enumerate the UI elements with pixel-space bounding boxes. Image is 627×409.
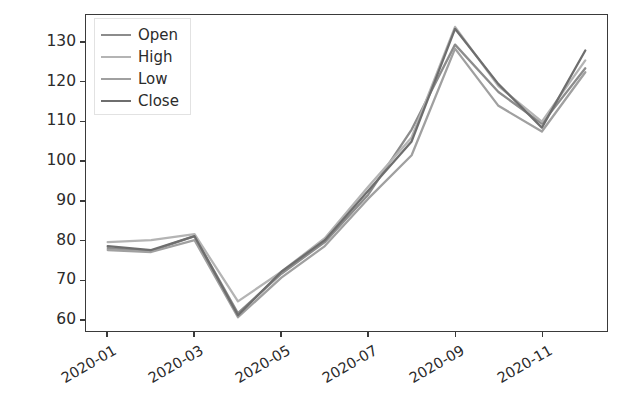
legend-swatch-high [101,56,131,58]
x-tick-mark [455,332,457,337]
legend-label: Open [138,28,178,43]
legend-item-high[interactable]: High [101,46,184,68]
x-tick-mark [106,332,108,337]
chart-figure: 60708090100110120130 2020-012020-032020-… [0,0,627,409]
x-tick-mark [193,332,195,337]
x-tick-label: 2020-09 [399,342,468,391]
legend-swatch-low [101,78,131,80]
legend-swatch-open [101,34,131,36]
legend-swatch-close [101,100,131,102]
legend-label: High [138,50,172,65]
legend-item-low[interactable]: Low [101,68,184,90]
x-tick-label: 2020-01 [50,342,119,391]
legend-item-open[interactable]: Open [101,24,184,46]
x-tick-mark [280,332,282,337]
x-tick-mark [367,332,369,337]
x-tick-label: 2020-03 [137,342,206,391]
legend-item-close[interactable]: Close [101,90,184,112]
legend: OpenHighLowClose [94,18,191,115]
x-tick-label: 2020-07 [312,342,381,391]
legend-label: Close [138,94,179,109]
x-tick-label: 2020-05 [225,342,294,391]
legend-label: Low [138,72,168,87]
x-tick-label: 2020-11 [486,342,555,391]
x-tick-mark [542,332,544,337]
